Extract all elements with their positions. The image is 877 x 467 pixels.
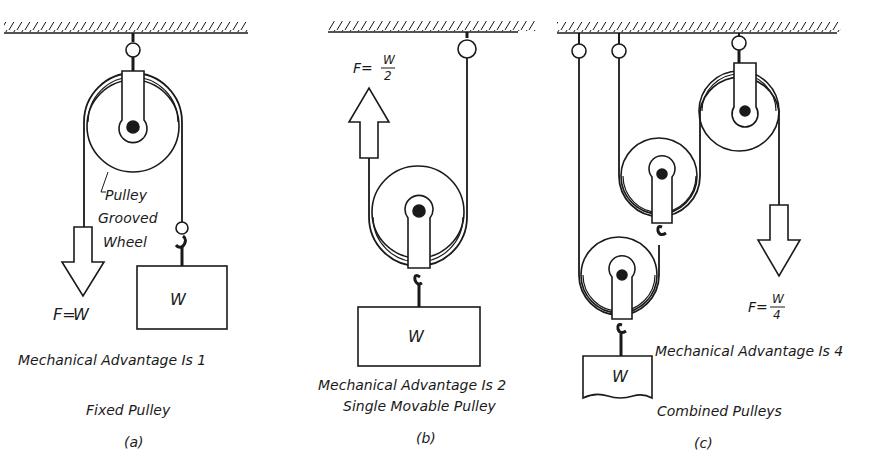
panel-title-c: Combined Pulleys <box>657 403 782 419</box>
force-lhs-b: F= <box>353 60 373 76</box>
axle-b <box>413 205 425 217</box>
pulley-diagram: Pulley Grooved Wheel W F= W Mechanical A… <box>0 0 877 467</box>
anchor-ring-c1 <box>572 44 586 58</box>
force-num-c: W <box>772 292 785 306</box>
force-arrow-down-c-icon <box>758 205 800 276</box>
axle-c3 <box>740 106 750 116</box>
axle-c2 <box>657 169 667 179</box>
axle-a <box>127 121 139 133</box>
panel-tag-a: (a) <box>124 434 144 450</box>
weight-label-c: W <box>612 367 629 386</box>
anchor-ring-c3 <box>732 36 746 50</box>
hanger-ring-icon <box>126 43 140 57</box>
panel-tag-c: (c) <box>694 435 713 451</box>
mechanical-advantage-a: Mechanical Advantage Is 1 <box>18 352 206 368</box>
mechanical-advantage-b: Mechanical Advantage Is 2 <box>318 377 506 393</box>
force-lhs-c: F= <box>748 299 768 315</box>
panel-title-a: Fixed Pulley <box>86 402 171 418</box>
force-den-c: 4 <box>773 308 781 322</box>
callout-line-3: Wheel <box>103 234 147 250</box>
ceiling-a <box>4 22 248 33</box>
ceiling-c <box>557 22 841 33</box>
panel-a-fixed-pulley <box>4 22 248 329</box>
force-den-b: 2 <box>384 69 392 83</box>
ceiling-b <box>328 21 536 32</box>
panel-tag-b: (b) <box>416 430 436 446</box>
weight-label-b: W <box>408 327 425 346</box>
anchor-ring-b <box>458 40 476 58</box>
panel-c-combined-pulleys <box>557 22 841 398</box>
force-value-a: W <box>73 305 90 324</box>
callout-line-2: Grooved <box>98 210 158 226</box>
mechanical-advantage-c: Mechanical Advantage Is 4 <box>655 343 843 359</box>
panel-title-b: Single Movable Pulley <box>343 398 497 414</box>
callout-line-1: Pulley <box>105 187 148 203</box>
force-arrow-down-icon <box>62 227 104 296</box>
force-arrow-up-icon <box>349 88 389 158</box>
force-num-b: W <box>383 53 396 67</box>
anchor-ring-c2 <box>612 44 626 58</box>
weight-label-a: W <box>170 290 187 309</box>
axle-c1 <box>617 270 627 280</box>
